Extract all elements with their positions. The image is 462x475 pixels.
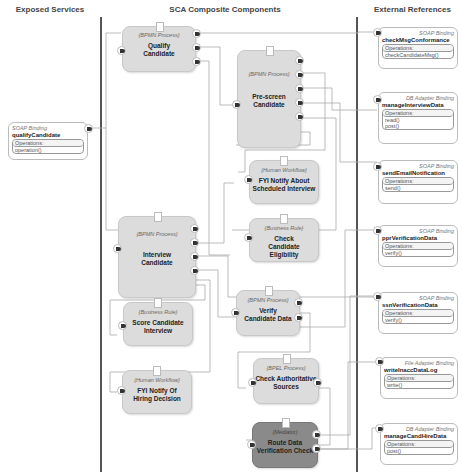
- reference-port-icon[interactable]: [375, 357, 384, 366]
- component-check-authoritative-sources[interactable]: {BPEL Process} Check Authoritative Sourc…: [253, 358, 319, 404]
- reference-check-msg-conformance[interactable]: SOAP Binding checkMsgConformance Operati…: [378, 27, 458, 69]
- reference-port-icon[interactable]: [294, 313, 303, 322]
- component-name: Check Candidate Eligibility: [259, 235, 309, 259]
- reference-port-icon[interactable]: [192, 43, 201, 52]
- reference-port-icon[interactable]: [192, 57, 201, 66]
- component-type: {BPMN Process}: [237, 297, 299, 303]
- reference-port-icon[interactable]: [373, 28, 382, 37]
- service-port-icon[interactable]: [247, 440, 256, 449]
- reference-port-icon[interactable]: [375, 424, 384, 433]
- component-tab: [282, 418, 290, 428]
- reference-port-icon[interactable]: [295, 84, 304, 93]
- operation: verify(): [383, 250, 453, 256]
- reference-write-inacc-data-log[interactable]: File Adapter Binding writeInaccDataLog O…: [380, 357, 458, 399]
- operation: write(): [385, 382, 453, 388]
- operations-label: Operations:: [383, 45, 453, 52]
- component-type: {BPEL Process}: [254, 365, 318, 371]
- reference-port-icon[interactable]: [373, 162, 382, 171]
- service-port-icon[interactable]: [232, 100, 241, 109]
- reference-port-icon[interactable]: [312, 430, 321, 439]
- operation: post(): [383, 123, 453, 129]
- service-qualify-candidate[interactable]: SOAP Binding qualifyCandidate Operations…: [8, 122, 88, 160]
- component-tab: [280, 156, 288, 166]
- component-route-data-verification-check[interactable]: {Mediator} Route Data Verification Check: [252, 422, 318, 468]
- component-pre-screen-candidate[interactable]: {BPMN Process} Pre-screen Candidate: [237, 50, 301, 148]
- component-score-candidate-interview[interactable]: {Business Rule} Score Candidate Intervie…: [123, 302, 193, 346]
- reference-port-icon[interactable]: [295, 98, 304, 107]
- operation: post(): [385, 448, 453, 454]
- reference-ppr-verification-data[interactable]: SOAP Binding pprVerificationData Operati…: [378, 225, 458, 267]
- reference-port-icon[interactable]: [373, 95, 382, 104]
- binding-type: SOAP Binding: [382, 163, 454, 169]
- component-tab: [283, 354, 291, 364]
- service-port-icon[interactable]: [244, 175, 253, 184]
- component-interview-candidate[interactable]: {BPMN Process} Interview Candidate: [118, 216, 196, 298]
- operation: send(): [383, 185, 453, 191]
- reference-port-icon[interactable]: [295, 56, 304, 65]
- reference-manage-cand-hire-data[interactable]: DB Adapter Binding manageCandHireData Op…: [380, 423, 458, 465]
- reference-ssn-verification-data[interactable]: SOAP Binding ssnVerificationData Operati…: [378, 292, 458, 334]
- reference-port-icon[interactable]: [190, 252, 199, 261]
- component-type: {Human Workflow}: [123, 377, 191, 383]
- service-port-icon[interactable]: [117, 386, 126, 395]
- binding-type: File Adapter Binding: [384, 360, 454, 366]
- reference-port-icon[interactable]: [294, 298, 303, 307]
- column-title-external-references: External References: [365, 5, 460, 14]
- operations-label: Operations:: [383, 178, 453, 185]
- component-qualify-candidate[interactable]: {BPMN Process} Qualify Candidate: [122, 26, 196, 72]
- reference-manage-interview-data[interactable]: DB Adapter Binding manageInterviewData O…: [378, 92, 458, 144]
- operations-box: Operations: operation(): [12, 139, 84, 154]
- component-fyi-notify-hiring-decision[interactable]: {Human Workflow} FYI Notify Of Hiring De…: [122, 370, 192, 414]
- column-title-sca-components: SCA Composite Components: [150, 5, 300, 14]
- reference-name: checkMsgConformance: [382, 37, 454, 43]
- operations-label: Operations:: [383, 110, 453, 117]
- reference-port-icon[interactable]: [373, 226, 382, 235]
- service-port-icon[interactable]: [117, 46, 126, 55]
- component-tab: [156, 22, 164, 32]
- component-tab: [153, 366, 161, 376]
- reference-port-icon[interactable]: [192, 29, 201, 38]
- reference-port-icon[interactable]: [373, 292, 382, 301]
- component-verify-candidate-data[interactable]: {BPMN Process} Verify Candidate Data: [236, 290, 300, 336]
- reference-port-icon[interactable]: [295, 70, 304, 79]
- reference-port-icon[interactable]: [312, 444, 321, 453]
- reference-port-icon[interactable]: [313, 378, 322, 387]
- reference-send-email-notification[interactable]: SOAP Binding sendEmailNotification Opera…: [378, 160, 458, 204]
- reference-name: manageCandHireData: [384, 433, 454, 439]
- binding-type: SOAP Binding: [382, 295, 454, 301]
- operations-label: Operations:: [385, 441, 453, 448]
- reference-name: ssnVerificationData: [382, 302, 454, 308]
- component-name: Interview Candidate: [137, 251, 177, 267]
- operations-box: Operations: verify(): [382, 242, 454, 257]
- component-tab: [154, 298, 162, 308]
- operations-box: Operations: verify(): [382, 309, 454, 324]
- divider-right: [356, 17, 358, 472]
- component-name: Verify Candidate Data: [243, 307, 293, 323]
- binding-type: SOAP Binding: [382, 228, 454, 234]
- reference-name: manageInterviewData: [382, 102, 454, 108]
- operations-label: Operations:: [13, 140, 83, 147]
- component-name: Qualify Candidate: [139, 42, 179, 58]
- component-tab: [154, 212, 162, 222]
- service-port-icon[interactable]: [118, 321, 127, 330]
- component-type: {BPMN Process}: [119, 231, 195, 237]
- reference-port-icon[interactable]: [190, 266, 199, 275]
- operations-box: Operations: post(): [384, 440, 454, 455]
- operations-box: Operations: send(): [382, 177, 454, 192]
- reference-port-icon[interactable]: [190, 224, 199, 233]
- service-port-icon[interactable]: [244, 233, 253, 242]
- service-port-icon[interactable]: [231, 308, 240, 317]
- operations-label: Operations:: [383, 310, 453, 317]
- service-port-icon[interactable]: [248, 378, 257, 387]
- component-fyi-notify-scheduled-interview[interactable]: {Human Workflow} FYI Notify About Schedu…: [249, 160, 319, 204]
- service-port-icon[interactable]: [113, 244, 122, 253]
- component-type: {Mediator}: [253, 429, 317, 435]
- column-title-exposed-services: Exposed Services: [10, 5, 90, 14]
- component-name: FYI Notify About Scheduled Interview: [250, 177, 318, 193]
- reference-port-icon[interactable]: [190, 238, 199, 247]
- component-type: {Business Rule}: [124, 309, 192, 315]
- service-port-icon[interactable]: [84, 124, 93, 133]
- component-check-candidate-eligibility[interactable]: {Business Rule} Check Candidate Eligibil…: [249, 218, 319, 262]
- reference-port-icon[interactable]: [295, 112, 304, 121]
- component-name: Check Authoritative Sources: [254, 375, 318, 391]
